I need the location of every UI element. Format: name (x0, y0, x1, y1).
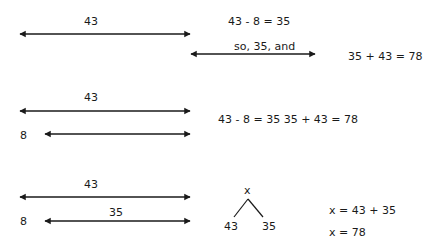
number-bond-lines (234, 199, 263, 217)
section2-left-label: 8 (20, 130, 27, 142)
number-bond-root: x (244, 185, 251, 197)
section3-equation-1: x = 43 + 35 (329, 205, 396, 217)
section3-top-bar-label: 43 (84, 179, 98, 191)
section1-equation-top: 43 - 8 = 35 (228, 16, 290, 28)
section3-bottom-bar-label: 35 (109, 207, 123, 219)
section3-equation-2: x = 78 (329, 227, 366, 239)
section1-second-bar-label: so, 35, and (234, 41, 295, 53)
section3-left-label: 8 (20, 216, 27, 228)
section2-top-bar-label: 43 (84, 92, 98, 104)
section2-equations: 43 - 8 = 35 35 + 43 = 78 (218, 114, 358, 126)
number-bond-left: 43 (224, 221, 238, 233)
number-bond-right: 35 (262, 221, 276, 233)
section1-bar-label: 43 (84, 16, 98, 28)
section1-equation-right: 35 + 43 = 78 (348, 51, 422, 63)
